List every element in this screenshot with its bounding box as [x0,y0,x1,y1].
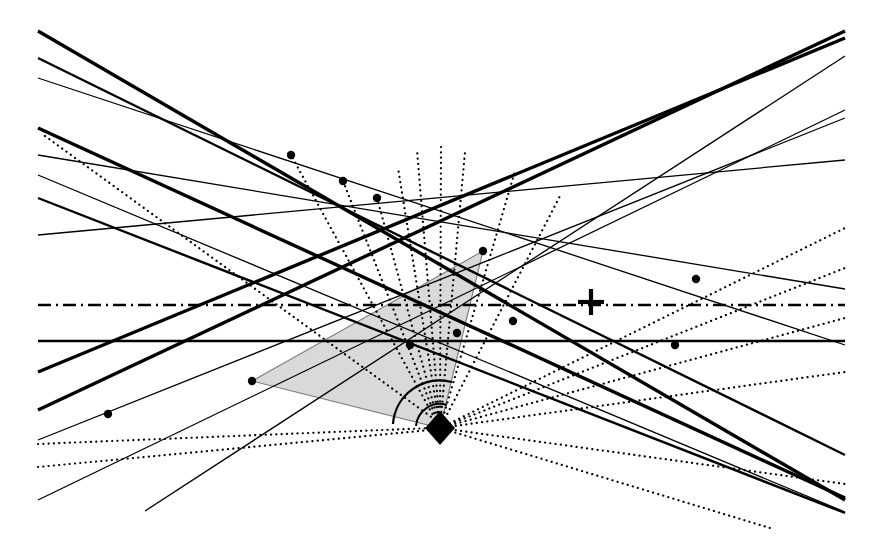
dot-on-thick-line-mid-b [373,194,381,202]
dot-lower-left [104,410,112,418]
dot-right-lower [671,341,679,349]
dot-on-horizontal-a [406,341,414,349]
dot-right-upper [692,275,700,283]
dot-triangle-top-vertex [479,247,487,255]
dot-triangle-left-vertex [248,377,256,385]
geometric-diagram-canvas [0,0,881,550]
figure-root: Line arrangement with shaded triangle, d… [0,0,881,550]
dot-on-thick-line-upper [287,151,295,159]
dot-on-horizontal-b [453,329,461,337]
dot-on-horizontal-c [509,317,517,325]
dot-on-thick-line-mid-a [339,177,347,185]
